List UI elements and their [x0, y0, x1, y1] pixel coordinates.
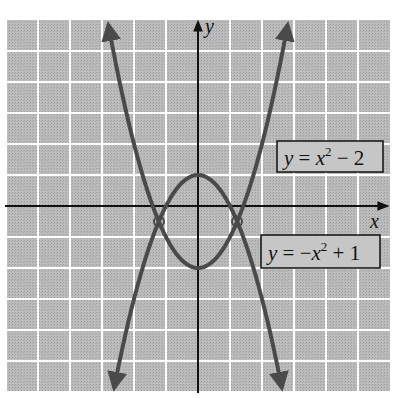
x-axis-label: x: [369, 210, 379, 232]
y-axis-label: y: [203, 15, 214, 38]
eq1-y: y: [282, 146, 294, 170]
svg-text:y = x2 − 2: y = x2 − 2: [282, 144, 364, 170]
label-lower-equation: y = −x2 + 1: [261, 235, 380, 268]
eq1-rest: − 2: [332, 146, 365, 170]
graph: y x y = x2 − 2 y = −x2 + 1: [0, 0, 402, 398]
svg-text:y = −x2 + 1: y = −x2 + 1: [266, 239, 360, 265]
eq2-y: y: [266, 241, 278, 265]
eq1-equals: =: [293, 146, 315, 170]
label-upper-equation: y = x2 − 2: [277, 141, 383, 172]
eq2-rest: + 1: [327, 241, 360, 265]
eq2-equals: = −: [277, 241, 311, 265]
